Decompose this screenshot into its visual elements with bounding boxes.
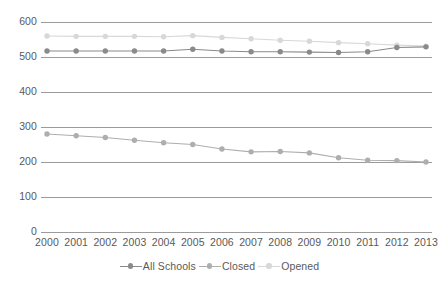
- data-point: [132, 48, 137, 53]
- legend-marker-icon: [258, 261, 280, 271]
- data-point: [44, 33, 49, 38]
- legend-label: Closed: [221, 260, 258, 272]
- legend-marker-icon: [199, 261, 221, 271]
- data-point: [365, 49, 370, 54]
- data-point: [73, 133, 78, 138]
- series-closed: [44, 131, 428, 164]
- x-axis: 2000200120022003200420052006200720082009…: [41, 236, 432, 250]
- x-tick-label: 2013: [409, 236, 442, 248]
- data-point: [132, 34, 137, 39]
- data-point: [365, 41, 370, 46]
- series-opened: [44, 33, 428, 49]
- legend-dot: [207, 263, 213, 269]
- data-point: [190, 47, 195, 52]
- data-point: [394, 45, 399, 50]
- chart-legend: All SchoolsClosedOpened: [0, 258, 442, 274]
- data-point: [278, 38, 283, 43]
- legend-marker-icon: [120, 261, 142, 271]
- data-point: [307, 150, 312, 155]
- data-point: [44, 48, 49, 53]
- data-point: [161, 48, 166, 53]
- data-point: [336, 50, 341, 55]
- data-point: [103, 135, 108, 140]
- data-point: [248, 36, 253, 41]
- legend-dot: [266, 263, 272, 269]
- data-point: [219, 35, 224, 40]
- legend-dot: [128, 263, 134, 269]
- data-point: [423, 44, 428, 49]
- data-point: [394, 158, 399, 163]
- legend-item-closed[interactable]: Closed: [199, 258, 258, 274]
- data-point: [103, 34, 108, 39]
- legend-item-all-schools[interactable]: All Schools: [120, 258, 199, 274]
- legend-label: All Schools: [142, 260, 199, 272]
- data-point: [248, 49, 253, 54]
- data-point: [190, 33, 195, 38]
- data-point: [132, 138, 137, 143]
- legend-item-opened[interactable]: Opened: [258, 258, 322, 274]
- series-all-schools: [44, 44, 428, 55]
- data-point: [365, 158, 370, 163]
- data-point: [336, 155, 341, 160]
- data-point: [73, 48, 78, 53]
- data-point: [73, 34, 78, 39]
- data-point: [161, 34, 166, 39]
- line-chart: 0100200300400500600 20002001200220032004…: [0, 0, 442, 289]
- data-point: [307, 39, 312, 44]
- data-point: [190, 142, 195, 147]
- data-point: [336, 40, 341, 45]
- data-point: [219, 146, 224, 151]
- data-point: [278, 149, 283, 154]
- data-point: [423, 159, 428, 164]
- legend-label: Opened: [280, 260, 322, 272]
- data-point: [44, 131, 49, 136]
- data-point: [161, 140, 166, 145]
- data-point: [219, 48, 224, 53]
- data-point: [278, 49, 283, 54]
- data-point: [103, 48, 108, 53]
- data-point: [307, 49, 312, 54]
- data-point: [248, 149, 253, 154]
